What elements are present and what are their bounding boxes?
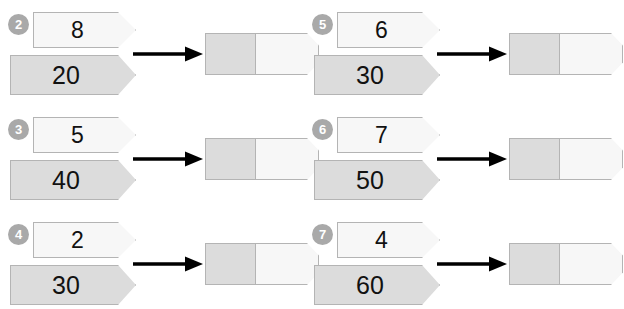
right-arrow-icon	[133, 44, 203, 64]
problem-number-badge: 3	[8, 119, 29, 140]
large-value-label: 60	[356, 271, 398, 300]
right-arrow-icon	[437, 149, 507, 169]
right-arrow-icon	[133, 254, 203, 274]
problem-item: 5 6 30	[304, 0, 607, 105]
result-bar[interactable]	[509, 243, 624, 285]
small-value-banner[interactable]: 8	[33, 12, 136, 48]
large-value-label: 20	[52, 61, 94, 90]
large-value-banner[interactable]: 20	[10, 55, 136, 95]
result-segment-left[interactable]	[509, 243, 560, 285]
result-segment-left[interactable]	[205, 243, 256, 285]
result-segment-right[interactable]	[559, 138, 623, 180]
result-bar[interactable]	[205, 138, 320, 180]
result-segment-right[interactable]	[559, 33, 623, 75]
small-value-label: 2	[71, 227, 98, 254]
right-arrow-icon	[133, 149, 203, 169]
large-value-banner[interactable]: 50	[314, 160, 440, 200]
right-arrow-icon	[437, 254, 507, 274]
large-value-banner[interactable]: 30	[314, 55, 440, 95]
result-bar[interactable]	[509, 138, 624, 180]
result-segment-right[interactable]	[559, 243, 623, 285]
small-value-label: 6	[375, 17, 402, 44]
large-value-label: 40	[52, 166, 94, 195]
large-value-banner[interactable]: 30	[10, 265, 136, 305]
result-bar[interactable]	[509, 33, 624, 75]
problem-number-badge: 7	[312, 224, 333, 245]
result-segment-left[interactable]	[205, 33, 256, 75]
problem-number-badge: 6	[312, 119, 333, 140]
small-value-banner[interactable]: 2	[33, 222, 136, 258]
small-value-label: 7	[375, 122, 402, 149]
large-value-label: 30	[356, 61, 398, 90]
large-value-label: 30	[52, 271, 94, 300]
problem-item: 2 8 20	[0, 0, 303, 105]
small-value-label: 5	[71, 122, 98, 149]
problem-number-badge: 5	[312, 14, 333, 35]
result-segment-left[interactable]	[509, 33, 560, 75]
result-segment-left[interactable]	[509, 138, 560, 180]
small-value-label: 8	[71, 17, 98, 44]
large-value-banner[interactable]: 40	[10, 160, 136, 200]
small-value-banner[interactable]: 4	[337, 222, 440, 258]
problem-item: 6 7 50	[304, 105, 607, 210]
problem-item: 4 2 30	[0, 210, 303, 309]
large-value-label: 50	[356, 166, 398, 195]
small-value-label: 4	[375, 227, 402, 254]
large-value-banner[interactable]: 60	[314, 265, 440, 305]
right-arrow-icon	[437, 44, 507, 64]
result-bar[interactable]	[205, 243, 320, 285]
small-value-banner[interactable]: 6	[337, 12, 440, 48]
result-bar[interactable]	[205, 33, 320, 75]
problem-item: 3 5 40	[0, 105, 303, 210]
small-value-banner[interactable]: 5	[33, 117, 136, 153]
problem-item: 7 4 60	[304, 210, 607, 309]
small-value-banner[interactable]: 7	[337, 117, 440, 153]
problem-number-badge: 2	[8, 14, 29, 35]
result-segment-left[interactable]	[205, 138, 256, 180]
problem-number-badge: 4	[8, 224, 29, 245]
